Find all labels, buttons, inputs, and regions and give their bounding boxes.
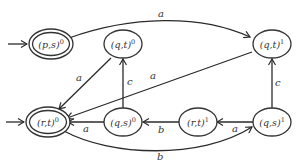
node-qt0: (q,t)0 — [104, 30, 142, 58]
edge-label-ps0-qt1: a — [158, 8, 164, 19]
node-qt1: (q,t)1 — [253, 30, 291, 58]
edge-qt0-rt0 — [59, 58, 111, 109]
edge-label-qs0-rt0: a — [83, 123, 89, 134]
edge-label-qt0-rt0: a — [76, 72, 82, 83]
node-rt0: (r,t)0 — [26, 107, 70, 137]
node-qs1: (q,s)1 — [253, 108, 291, 136]
automaton-diagram: a a c a a b a c b (p,s)0 (q,t)0 (q,t)1 (… — [0, 0, 301, 167]
edge-label-qs1-rt1: a — [232, 123, 238, 134]
edge-label-rt1-qs0: b — [158, 124, 164, 135]
edge-ps0-qt1 — [69, 21, 250, 38]
edge-label-qt1-rt0: a — [150, 70, 156, 81]
edge-qt1-rt0 — [67, 52, 252, 118]
node-qs0: (q,s)0 — [104, 108, 142, 136]
edge-label-rt0-qs1: b — [157, 151, 163, 162]
edge-label-qs1-qt1: c — [275, 77, 281, 88]
node-ps0: (p,s)0 — [29, 29, 73, 59]
edge-label-qs0-qt0: c — [127, 76, 133, 87]
node-rt1: (r,t)1 — [179, 108, 217, 136]
